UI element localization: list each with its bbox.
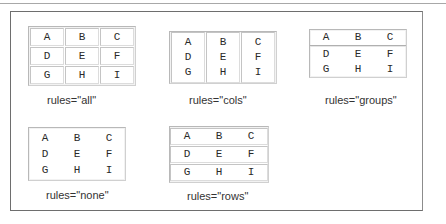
table-cell: E [203, 146, 235, 163]
caption-rules-none: rules="none" [46, 189, 109, 201]
table-row: G H I [171, 65, 275, 83]
table-cell: C [235, 128, 268, 145]
table-header-row: A B C [310, 30, 406, 46]
table-cell: A [29, 128, 61, 146]
table-cell: F [235, 146, 268, 163]
table-row: D E F [30, 47, 134, 65]
table-cell: D [310, 46, 342, 62]
table-rules-all: A B C D E F G H I [28, 26, 136, 86]
table-cell: A [171, 32, 205, 50]
example-rules-cols: A B C D E F G H I [169, 31, 277, 84]
example-rules-rows: A B C D E F G H I [169, 126, 269, 183]
table-rules-cols: A B C D E F G H I [169, 31, 277, 84]
table-cell: B [206, 32, 240, 50]
table-cell: B [342, 30, 374, 46]
table-cell: A [30, 28, 64, 46]
table-cell: G [30, 66, 64, 84]
table-row: A B C [29, 128, 125, 146]
table-cell: A [170, 128, 203, 145]
table-cell: G [171, 65, 205, 83]
table-row: G H I [30, 66, 134, 84]
table-row: D E F [29, 146, 125, 162]
table-cell: E [342, 46, 374, 62]
table-cell: A [310, 30, 342, 46]
table-cell: H [61, 162, 93, 180]
table-cell: H [206, 65, 240, 83]
table-cell: B [61, 128, 93, 146]
table-cell: C [241, 32, 275, 50]
table-row: A B C [170, 128, 268, 145]
table-row: G H I [29, 162, 125, 180]
table-cell: D [171, 50, 205, 65]
table-cell: H [203, 164, 235, 181]
table-cell: C [100, 28, 134, 46]
table-cell: I [235, 164, 268, 181]
table-cell: G [29, 162, 61, 180]
caption-rules-cols: rules="cols" [189, 94, 247, 106]
caption-rules-groups: rules="groups" [325, 94, 397, 106]
table-cell: C [374, 30, 406, 46]
example-rules-all: A B C D E F G H I [28, 26, 136, 86]
table-cell: I [93, 162, 125, 180]
table-cell: B [65, 28, 99, 46]
table-cell: C [93, 128, 125, 146]
table-cell: D [29, 146, 61, 162]
table-rules-rows: A B C D E F G H I [169, 126, 269, 183]
table-row: G H I [310, 62, 406, 77]
table-cell: E [61, 146, 93, 162]
table-cell: I [100, 66, 134, 84]
example-rules-none: A B C D E F G H I [28, 127, 126, 181]
table-cell: E [206, 50, 240, 65]
table-cell: H [65, 66, 99, 84]
table-rules-groups: A B C D E F G H I [309, 29, 407, 78]
table-cell: D [30, 47, 64, 65]
table-cell: F [374, 46, 406, 62]
table-cell: F [93, 146, 125, 162]
table-rules-none: A B C D E F G H I [28, 127, 126, 181]
table-cell: E [65, 47, 99, 65]
caption-rules-all: rules="all" [47, 94, 96, 106]
table-row: G H I [170, 164, 268, 181]
table-cell: D [170, 146, 203, 163]
table-row: D E F [310, 46, 406, 62]
table-cell: H [342, 62, 374, 77]
table-cell: F [241, 50, 275, 65]
table-row: D E F [171, 50, 275, 65]
table-cell: I [241, 65, 275, 83]
table-row: D E F [170, 146, 268, 163]
table-cell: G [170, 164, 203, 181]
table-row: A B C [171, 32, 275, 50]
example-rules-groups: A B C D E F G H I [309, 29, 407, 78]
table-cell: F [100, 47, 134, 65]
table-cell: I [374, 62, 406, 77]
table-row: A B C [30, 28, 134, 46]
top-divider [0, 3, 446, 4]
table-cell: G [310, 62, 342, 77]
caption-rules-rows: rules="rows" [187, 190, 248, 202]
table-cell: B [203, 128, 235, 145]
